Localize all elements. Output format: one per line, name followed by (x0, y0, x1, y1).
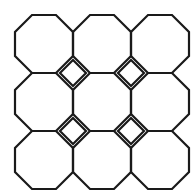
figure-background (0, 0, 194, 194)
tiling-figure (0, 0, 194, 194)
tiling-canvas (0, 0, 194, 194)
